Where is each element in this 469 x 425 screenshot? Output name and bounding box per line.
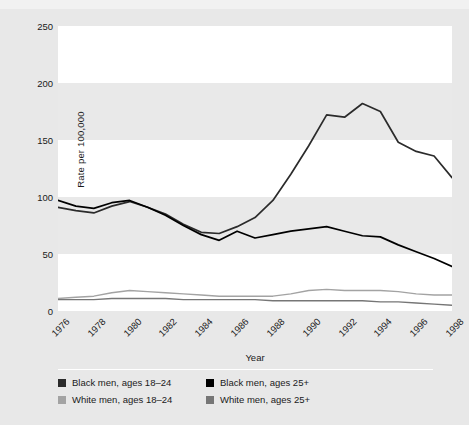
legend-item[interactable]: Black men, ages 25+	[206, 374, 452, 391]
x-tick-label: 1978	[85, 316, 108, 339]
x-tick-label: 1996	[407, 316, 430, 339]
legend-item[interactable]: Black men, ages 18–24	[58, 374, 206, 391]
x-tick-label: 1984	[192, 316, 215, 339]
x-tick-label: 1998	[443, 316, 466, 339]
y-axis-label: Rate per 100,000	[75, 90, 86, 210]
plot-area: Rate per 100,000 250200150100500 1976197…	[58, 26, 452, 311]
x-tick-label: 1992	[336, 316, 359, 339]
x-tick-label: 1982	[157, 316, 180, 339]
legend-label: Black men, ages 18–24	[72, 377, 171, 388]
x-tick-label: 1976	[49, 316, 72, 339]
y-tick-label: 150	[37, 135, 53, 146]
x-axis-label: Year	[58, 352, 452, 363]
series-line	[58, 298, 452, 305]
x-tick-label: 1990	[300, 316, 323, 339]
series-line	[58, 104, 452, 234]
x-tick-label: 1980	[121, 316, 144, 339]
y-tick-label: 50	[42, 249, 53, 260]
legend-item[interactable]: White men, ages 18–24	[58, 391, 206, 408]
y-tick-label: 0	[48, 306, 53, 317]
chart-figure: Rate per 100,000 250200150100500 1976197…	[0, 0, 469, 425]
y-tick-label: 100	[37, 192, 53, 203]
chart-lines	[58, 26, 452, 311]
legend-swatch	[206, 396, 214, 404]
legend-divider	[58, 369, 433, 370]
legend-item[interactable]: White men, ages 25+	[206, 391, 452, 408]
legend-swatch	[58, 379, 66, 387]
series-line	[58, 289, 452, 298]
legend-swatch	[58, 396, 66, 404]
cropped-title	[0, 0, 469, 9]
legend-label: White men, ages 18–24	[72, 394, 172, 405]
x-tick-label: 1994	[371, 316, 394, 339]
x-tick-label: 1986	[228, 316, 251, 339]
series-line	[58, 200, 452, 266]
legend-label: Black men, ages 25+	[220, 377, 309, 388]
y-tick-label: 200	[37, 78, 53, 89]
legend-swatch	[206, 379, 214, 387]
x-tick-label: 1988	[264, 316, 287, 339]
legend-label: White men, ages 25+	[220, 394, 310, 405]
y-tick-label: 250	[37, 21, 53, 32]
chart-legend: Black men, ages 18–24Black men, ages 25+…	[58, 374, 452, 408]
